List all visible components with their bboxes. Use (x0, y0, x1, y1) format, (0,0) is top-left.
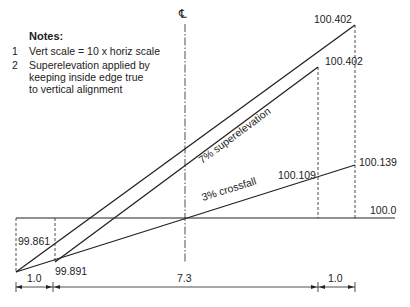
dim-arrow (311, 285, 317, 289)
note-number: 1 (12, 45, 29, 57)
note-item: 2 Superelevation applied by keeping insi… (12, 59, 160, 95)
dim-arrow (54, 285, 60, 289)
note-text: Superelevation applied by keeping inside… (29, 59, 150, 95)
note-text: Vert scale = 10 x horiz scale (29, 45, 160, 57)
datum-level-label: 100.0 (370, 204, 396, 216)
dim-arrow (319, 285, 325, 289)
outer-top-level-label: 100.402 (314, 13, 352, 25)
left-outer-level-label: 99.861 (18, 235, 50, 247)
inner-top-level-label: 100.402 (325, 55, 363, 67)
centreline-symbol: ℄ (178, 7, 187, 21)
dim-arrow (348, 285, 354, 289)
dim-right-verge-label: 1.0 (328, 272, 343, 284)
left-inner-level-label: 99.891 (55, 265, 87, 277)
crossfall-inner-level-label: 100.109 (278, 169, 316, 181)
notes-title: Notes: (29, 30, 160, 42)
dim-arrow (46, 285, 52, 289)
dim-arrow (16, 285, 22, 289)
notes-block: Notes: 1 Vert scale = 10 x horiz scale 2… (12, 30, 160, 97)
dim-left-verge-label: 1.0 (27, 272, 42, 284)
note-number: 2 (12, 59, 29, 95)
crossfall-outer-level-label: 100.139 (359, 156, 397, 168)
dim-carriageway-label: 7.3 (177, 272, 192, 284)
note-item: 1 Vert scale = 10 x horiz scale (12, 45, 160, 57)
